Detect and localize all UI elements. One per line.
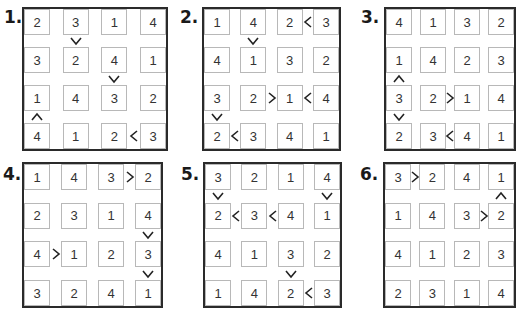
grid-cell[interactable]: 4 xyxy=(454,123,480,149)
less-than-icon xyxy=(229,209,243,223)
grid-cell[interactable]: 4 xyxy=(98,280,124,306)
grid-cell[interactable]: 4 xyxy=(240,9,266,35)
grid-cell[interactable]: 3 xyxy=(63,9,89,35)
grid-cell[interactable]: 2 xyxy=(277,9,303,35)
grid-cell[interactable]: 1 xyxy=(241,241,267,267)
grid-cell[interactable]: 4 xyxy=(24,123,50,149)
grid-cell[interactable]: 4 xyxy=(241,280,267,306)
grid-cell[interactable]: 3 xyxy=(419,280,445,306)
grid-cell[interactable]: 4 xyxy=(63,85,89,111)
grid-cell[interactable]: 1 xyxy=(488,123,514,149)
grid-cell[interactable]: 1 xyxy=(386,47,412,73)
grid-cell[interactable]: 4 xyxy=(140,9,166,35)
grid-cell[interactable]: 3 xyxy=(278,241,304,267)
grid-cell[interactable]: 2 xyxy=(61,280,87,306)
grid-cell[interactable]: 4 xyxy=(314,164,340,190)
grid-cell[interactable]: 3 xyxy=(98,164,124,190)
grid-cell[interactable]: 2 xyxy=(24,203,50,229)
grid-cell[interactable]: 1 xyxy=(454,280,480,306)
grid-cell[interactable]: 1 xyxy=(24,164,50,190)
grid-cell[interactable]: 1 xyxy=(101,9,127,35)
grid-cell[interactable]: 1 xyxy=(98,203,124,229)
grid-cell[interactable]: 2 xyxy=(488,9,514,35)
grid-cell[interactable]: 3 xyxy=(313,9,339,35)
grid-cell[interactable]: 4 xyxy=(24,241,50,267)
grid-cell[interactable]: 4 xyxy=(313,85,339,111)
grid-cell[interactable]: 1 xyxy=(313,123,339,149)
grid-cell[interactable]: 1 xyxy=(488,164,514,190)
grid-cell[interactable]: 2 xyxy=(24,9,50,35)
grid-cell[interactable]: 4 xyxy=(488,85,514,111)
grid-cell[interactable]: 2 xyxy=(488,203,514,229)
grid-cell[interactable]: 3 xyxy=(61,203,87,229)
grid-cell[interactable]: 2 xyxy=(313,47,339,73)
grid-cell[interactable]: 1 xyxy=(61,241,87,267)
grid-cell[interactable]: 1 xyxy=(24,85,50,111)
grid-cell[interactable]: 2 xyxy=(386,123,412,149)
grid-cell[interactable]: 4 xyxy=(135,203,161,229)
grid-cell[interactable]: 2 xyxy=(135,164,161,190)
grid-cell[interactable]: 2 xyxy=(385,280,411,306)
grid-cell[interactable]: 4 xyxy=(204,47,230,73)
grid-cell[interactable]: 2 xyxy=(240,85,266,111)
grid-cell[interactable]: 3 xyxy=(24,280,50,306)
grid-cell[interactable]: 4 xyxy=(385,241,411,267)
grid-cell[interactable]: 2 xyxy=(454,241,480,267)
down-chevron-icon xyxy=(246,34,260,48)
grid-cell[interactable]: 3 xyxy=(454,203,480,229)
grid-cell[interactable]: 1 xyxy=(314,203,340,229)
grid-cell[interactable]: 4 xyxy=(205,241,231,267)
grid-cell[interactable]: 1 xyxy=(204,9,230,35)
grid-cell[interactable]: 4 xyxy=(61,164,87,190)
grid-cell[interactable]: 2 xyxy=(454,47,480,73)
grid-cell[interactable]: 1 xyxy=(278,164,304,190)
grid-cell[interactable]: 3 xyxy=(135,241,161,267)
grid-cell[interactable]: 3 xyxy=(240,123,266,149)
grid-cell[interactable]: 3 xyxy=(386,85,412,111)
grid-cell[interactable]: 2 xyxy=(278,280,304,306)
grid-cell[interactable]: 2 xyxy=(63,47,89,73)
grid-cell[interactable]: 4 xyxy=(419,203,445,229)
grid-cell[interactable]: 3 xyxy=(24,47,50,73)
grid-cell[interactable]: 1 xyxy=(63,123,89,149)
grid-cell[interactable]: 3 xyxy=(204,85,230,111)
grid-cell[interactable]: 1 xyxy=(385,203,411,229)
grid-cell[interactable]: 2 xyxy=(241,164,267,190)
grid-cell[interactable]: 4 xyxy=(277,123,303,149)
grid-cell[interactable]: 3 xyxy=(205,164,231,190)
grid-cell[interactable]: 3 xyxy=(385,164,411,190)
grid-cell[interactable]: 2 xyxy=(205,203,231,229)
down-chevron-icon xyxy=(69,34,83,48)
grid-cell[interactable]: 3 xyxy=(488,241,514,267)
grid-cell[interactable]: 3 xyxy=(314,280,340,306)
grid-cell[interactable]: 2 xyxy=(98,241,124,267)
grid-cell[interactable]: 1 xyxy=(240,47,266,73)
grid-cell[interactable]: 3 xyxy=(277,47,303,73)
grid-cell[interactable]: 1 xyxy=(205,280,231,306)
puzzle-number: 5. xyxy=(181,166,199,183)
grid-cell[interactable]: 1 xyxy=(420,9,446,35)
grid-cell[interactable]: 2 xyxy=(314,241,340,267)
grid-cell[interactable]: 4 xyxy=(386,9,412,35)
grid-cell[interactable]: 1 xyxy=(277,85,303,111)
grid-cell[interactable]: 3 xyxy=(241,203,267,229)
grid-cell[interactable]: 3 xyxy=(454,9,480,35)
grid-cell[interactable]: 3 xyxy=(101,85,127,111)
grid-cell[interactable]: 1 xyxy=(140,47,166,73)
grid-cell[interactable]: 1 xyxy=(419,241,445,267)
grid-cell[interactable]: 2 xyxy=(140,85,166,111)
grid-cell[interactable]: 2 xyxy=(419,164,445,190)
greater-than-icon xyxy=(265,91,279,105)
grid-cell[interactable]: 2 xyxy=(101,123,127,149)
grid-cell[interactable]: 4 xyxy=(420,47,446,73)
grid-cell[interactable]: 1 xyxy=(454,85,480,111)
grid-cell[interactable]: 1 xyxy=(135,280,161,306)
grid-cell[interactable]: 3 xyxy=(140,123,166,149)
grid-cell[interactable]: 4 xyxy=(454,164,480,190)
grid-cell[interactable]: 4 xyxy=(278,203,304,229)
grid-cell[interactable]: 4 xyxy=(488,280,514,306)
grid-cell[interactable]: 2 xyxy=(204,123,230,149)
grid-cell[interactable]: 4 xyxy=(101,47,127,73)
less-than-icon xyxy=(302,286,316,300)
grid-cell[interactable]: 3 xyxy=(488,47,514,73)
